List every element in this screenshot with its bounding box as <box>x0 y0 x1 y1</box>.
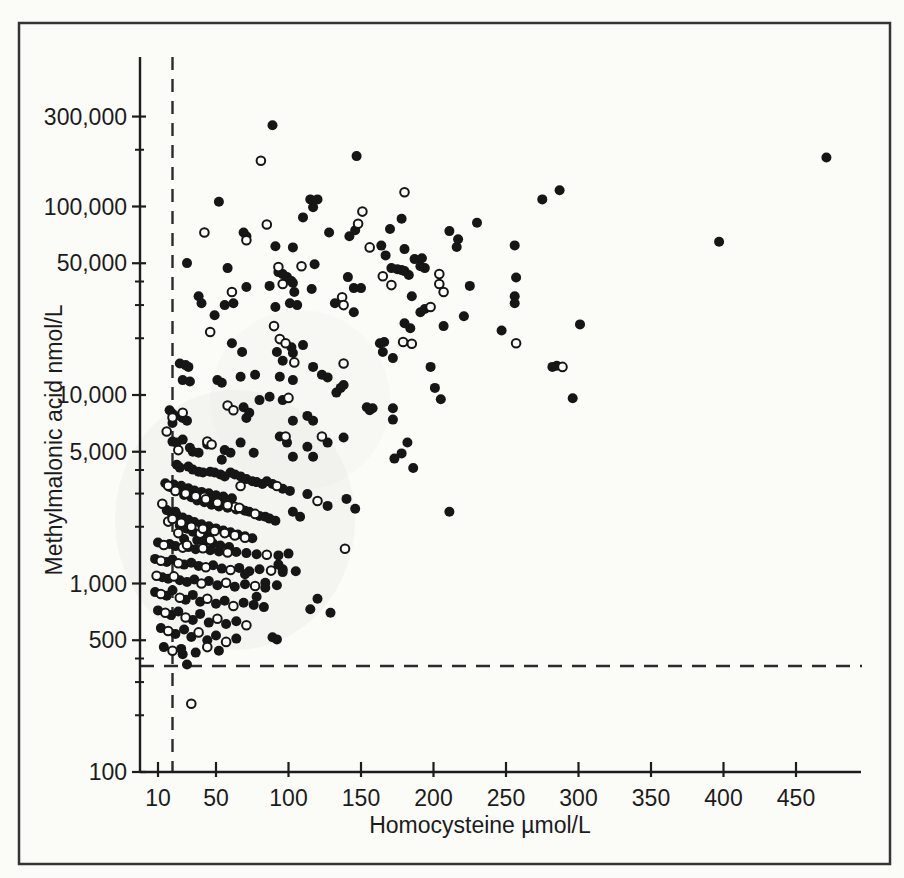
filled-data-point <box>568 393 578 403</box>
y-tick-label: 300,000 <box>44 104 127 130</box>
open-data-point <box>229 602 238 611</box>
filled-data-point <box>408 463 418 473</box>
open-data-point <box>181 613 190 622</box>
x-tick-label: 350 <box>632 785 670 811</box>
filled-data-point <box>295 512 305 522</box>
filled-data-point <box>288 375 298 385</box>
x-tick-label: 100 <box>269 785 307 811</box>
filled-data-point <box>214 197 224 207</box>
open-data-point <box>168 515 177 524</box>
open-data-point <box>213 615 222 624</box>
y-tick-label: 1,000 <box>69 571 127 597</box>
filled-data-point <box>231 616 241 626</box>
filled-data-point <box>288 452 298 462</box>
filled-data-point <box>241 413 251 423</box>
open-data-point <box>278 280 287 289</box>
filled-data-point <box>210 310 220 320</box>
filled-data-point <box>231 634 241 644</box>
y-tick-label: 5,000 <box>69 439 127 465</box>
filled-data-point <box>497 326 507 336</box>
filled-data-point <box>260 583 270 593</box>
filled-data-point <box>349 307 359 317</box>
open-data-point <box>281 339 290 348</box>
filled-data-point <box>182 258 192 268</box>
filled-data-point <box>292 300 302 310</box>
filled-data-point <box>265 392 275 402</box>
open-data-point <box>408 340 417 349</box>
open-data-point <box>439 288 448 297</box>
open-data-point <box>426 303 435 312</box>
filled-data-point <box>226 448 236 458</box>
filled-data-point <box>323 372 333 382</box>
x-tick-label: 250 <box>487 785 525 811</box>
filled-data-point <box>388 415 398 425</box>
open-data-point <box>242 621 251 630</box>
filled-data-point <box>407 291 417 301</box>
filled-data-point <box>323 501 333 511</box>
open-data-point <box>387 281 396 290</box>
filled-data-point <box>272 634 282 644</box>
y-tick-label: 100 <box>89 759 127 785</box>
filled-data-point <box>430 383 440 393</box>
filled-data-point <box>326 608 336 618</box>
filled-data-point <box>179 625 189 635</box>
open-data-point <box>170 572 179 581</box>
open-data-point <box>164 627 173 636</box>
filled-data-point <box>402 438 412 448</box>
filled-data-point <box>249 600 259 610</box>
filled-data-point <box>185 377 195 387</box>
filled-data-point <box>575 319 585 329</box>
open-data-point <box>158 499 167 508</box>
open-data-point <box>187 523 196 532</box>
open-data-point <box>197 579 206 588</box>
open-data-point <box>199 525 208 534</box>
filled-data-point <box>240 579 250 589</box>
filled-data-point <box>183 362 193 372</box>
filled-data-point <box>385 224 395 234</box>
y-axis-title: Methylmalonic acid nmol/L <box>41 304 67 575</box>
filled-data-point <box>227 338 237 348</box>
filled-data-point <box>197 298 207 308</box>
open-data-point <box>210 527 219 536</box>
filled-data-point <box>217 455 227 465</box>
filled-data-point <box>275 372 285 382</box>
open-data-point <box>236 482 245 491</box>
filled-data-point <box>308 202 318 212</box>
open-data-point <box>251 582 260 591</box>
filled-data-point <box>272 580 282 590</box>
open-data-point <box>220 529 229 538</box>
filled-data-point <box>217 378 227 388</box>
open-data-point <box>235 504 244 513</box>
open-data-point <box>358 207 367 216</box>
open-data-point <box>229 406 238 415</box>
filled-data-point <box>188 590 198 600</box>
filled-data-point <box>284 549 294 559</box>
filled-data-point <box>244 566 254 576</box>
filled-data-point <box>404 270 414 280</box>
filled-data-point <box>439 321 449 331</box>
filled-data-point <box>307 284 317 294</box>
filled-data-point <box>265 281 275 291</box>
open-data-point <box>558 363 567 372</box>
open-data-point <box>512 339 521 348</box>
open-data-point <box>176 594 185 603</box>
open-data-point <box>313 497 322 506</box>
open-data-point <box>152 571 161 580</box>
filled-data-point <box>511 273 521 283</box>
open-data-point <box>273 482 282 491</box>
open-data-point <box>202 563 211 572</box>
open-data-point <box>157 557 166 566</box>
y-tick-label: 10,000 <box>57 382 127 408</box>
open-data-point <box>223 501 232 510</box>
filled-data-point <box>288 348 298 358</box>
filled-data-point <box>250 370 260 380</box>
filled-data-point <box>381 250 391 260</box>
open-data-point <box>177 519 186 528</box>
filled-data-point <box>376 241 386 251</box>
filled-data-point <box>356 283 366 293</box>
filled-data-point <box>302 442 312 452</box>
open-data-point <box>242 236 251 245</box>
open-data-point <box>341 544 350 553</box>
open-data-point <box>339 301 348 310</box>
filled-data-point <box>308 416 318 426</box>
